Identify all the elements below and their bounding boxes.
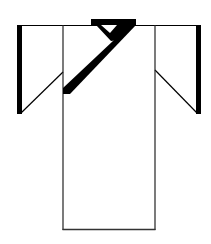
background bbox=[0, 0, 211, 244]
robe-illustration bbox=[0, 0, 211, 244]
left-sleeve-cuff bbox=[17, 25, 22, 114]
right-sleeve-cuff bbox=[196, 25, 201, 114]
